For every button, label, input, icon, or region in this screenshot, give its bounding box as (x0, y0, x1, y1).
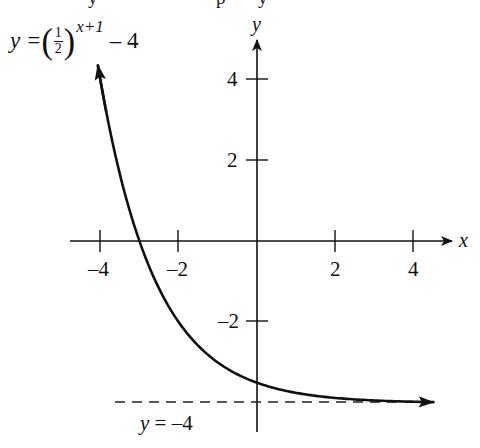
chart-canvas (0, 0, 480, 448)
fraction-numerator: 1 (54, 26, 63, 42)
curve-left-arrow (98, 65, 106, 112)
formula-tail: – 4 (110, 28, 139, 54)
fraction-denominator: 2 (55, 42, 62, 57)
formula-exponent: x+1 (76, 17, 104, 37)
formula-paren-close: ) (64, 23, 75, 59)
formula-fraction: 1 2 (54, 26, 63, 56)
y-axis-label: y (252, 14, 261, 34)
y-tick-label: 2 (227, 150, 238, 171)
x-axis-label: x (459, 230, 468, 250)
y-tick-label: 4 (227, 69, 238, 90)
y-tick-label: –2 (218, 311, 239, 332)
formula-lhs: y = (10, 28, 41, 54)
x-tick-label: –4 (88, 259, 109, 280)
x-tick-label: –2 (167, 259, 188, 280)
formula-paren-open: ( (41, 23, 52, 59)
function-formula-label: y = ( 1 2 ) x+1 – 4 (10, 24, 138, 58)
asymptote-label: y = –4 (140, 413, 193, 434)
exponential-curve (98, 65, 434, 402)
x-tick-label: 4 (408, 259, 419, 280)
x-tick-label: 2 (330, 259, 341, 280)
